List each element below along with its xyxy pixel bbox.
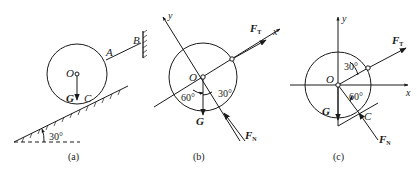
figure-c bbox=[290, 17, 408, 140]
center-point bbox=[336, 83, 340, 87]
figure-c-labels: y x FT 30° O 60° G C FN (c) bbox=[322, 13, 411, 163]
label-c: C bbox=[84, 92, 92, 104]
angle-label-60: 60° bbox=[181, 92, 195, 103]
tangent-line bbox=[338, 103, 378, 126]
axis-label-y: y bbox=[167, 10, 173, 21]
label-g: G bbox=[196, 115, 204, 127]
tension-arrow bbox=[370, 48, 406, 67]
center-point bbox=[201, 75, 205, 79]
label-g: G bbox=[66, 92, 74, 104]
label-a: A bbox=[105, 46, 113, 58]
label-g: G bbox=[322, 105, 330, 117]
angle-arc-30 bbox=[42, 129, 44, 142]
statics-diagram: O G C A B 30° (a) y x FT O 60° 30° G FN … bbox=[0, 0, 417, 173]
rope-attachment-point bbox=[366, 66, 370, 70]
axis-label-y: y bbox=[341, 13, 347, 24]
figure-a bbox=[14, 30, 147, 142]
angle-label-30: 30° bbox=[49, 131, 63, 142]
label-fn: FN bbox=[378, 133, 391, 146]
axis-label-x: x bbox=[405, 87, 411, 98]
angle-label-30: 30° bbox=[218, 88, 232, 99]
label-fn: FN bbox=[244, 129, 257, 142]
label-ft: FT bbox=[391, 34, 403, 47]
normal-force-arrow bbox=[224, 113, 245, 141]
label-o: O bbox=[189, 71, 197, 83]
label-b: B bbox=[133, 34, 140, 46]
label-o: O bbox=[66, 67, 74, 79]
caption-c: (c) bbox=[333, 151, 344, 163]
figure-b-labels: y x FT O 60° 30° G FN (b) bbox=[167, 10, 278, 163]
x-axis bbox=[154, 29, 280, 107]
caption-b: (b) bbox=[193, 151, 205, 163]
axis-label-x: x bbox=[272, 26, 278, 37]
center-point bbox=[75, 72, 79, 76]
rope-attachment-point bbox=[230, 57, 234, 61]
angle-label-60: 60° bbox=[349, 91, 363, 102]
tension-arrow bbox=[234, 40, 266, 58]
angle-label-30: 30° bbox=[344, 61, 358, 72]
figure-b bbox=[154, 17, 280, 141]
label-ft: FT bbox=[249, 22, 261, 35]
caption-a: (a) bbox=[68, 151, 79, 163]
label-c: C bbox=[364, 110, 372, 122]
label-o: O bbox=[326, 73, 334, 85]
